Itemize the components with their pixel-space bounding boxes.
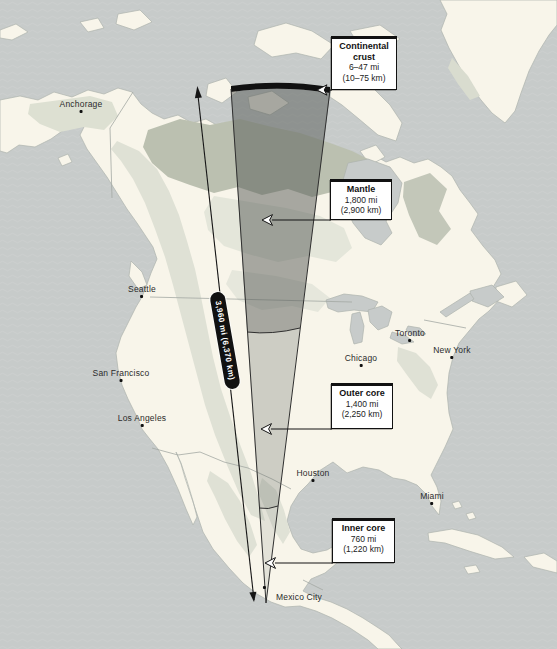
city-mexico-city: Mexico City xyxy=(276,592,322,602)
city-dot xyxy=(430,502,433,505)
city-dot xyxy=(141,295,144,298)
city-label: Chicago xyxy=(345,353,378,363)
callout-title: Continental crust xyxy=(333,41,395,62)
callout-miles: 1,400 mi xyxy=(333,399,391,410)
city-miami: Miami xyxy=(420,491,444,505)
city-dot xyxy=(120,379,123,382)
city-los-angeles: Los Angeles xyxy=(118,413,167,427)
callout-outer-core: Outer core 1,400 mi (2,250 km) xyxy=(331,383,393,429)
city-dot xyxy=(450,356,453,359)
city-label: San Francisco xyxy=(93,368,150,378)
callout-kilometers: (1,220 km) xyxy=(334,544,393,555)
city-dot xyxy=(140,424,143,427)
city-houston: Houston xyxy=(296,468,329,482)
city-label: New York xyxy=(433,345,471,355)
callout-kilometers: (2,900 km) xyxy=(332,205,390,216)
city-toronto: Toronto xyxy=(395,328,425,342)
city-dot xyxy=(312,479,315,482)
callout-miles: 760 mi xyxy=(334,534,393,545)
city-dot xyxy=(408,339,411,342)
callout-mantle: Mantle 1,800 mi (2,900 km) xyxy=(330,179,392,220)
callout-miles: 1,800 mi xyxy=(332,195,390,206)
city-label: Anchorage xyxy=(60,99,103,109)
callout-title: Outer core xyxy=(333,388,391,399)
city-anchorage: Anchorage xyxy=(60,99,103,113)
north-america-map xyxy=(0,0,557,649)
city-dot xyxy=(263,586,266,589)
city-dot xyxy=(79,110,82,113)
callout-title: Mantle xyxy=(332,184,390,195)
callout-inner-core: Inner core 760 mi (1,220 km) xyxy=(332,518,395,563)
city-label: Los Angeles xyxy=(118,413,167,423)
callout-continental-crust: Continental crust 6–47 mi (10–75 km) xyxy=(331,36,397,90)
city-dot xyxy=(360,364,363,367)
city-new-york: New York xyxy=(433,345,471,359)
callout-kilometers: (2,250 km) xyxy=(333,409,391,420)
city-seattle: Seattle xyxy=(128,284,156,298)
earth-layers-map-figure: 3,960 mi (6,370 km) Anchorage Seattle Sa… xyxy=(0,0,557,649)
city-san-francisco: San Francisco xyxy=(93,368,150,382)
callout-title: Inner core xyxy=(334,523,393,534)
city-label: Toronto xyxy=(395,328,425,338)
city-label: Mexico City xyxy=(276,592,322,602)
callout-kilometers: (10–75 km) xyxy=(333,73,395,84)
city-label: Seattle xyxy=(128,284,156,294)
city-chicago: Chicago xyxy=(345,353,378,367)
city-label: Houston xyxy=(296,468,329,478)
city-label: Miami xyxy=(420,491,444,501)
callout-miles: 6–47 mi xyxy=(333,62,395,73)
